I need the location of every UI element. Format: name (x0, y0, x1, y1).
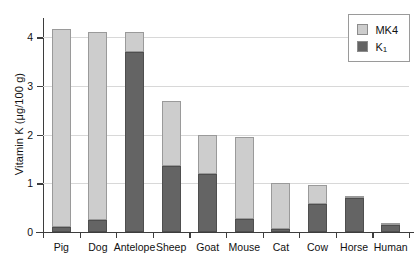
bar-goat (198, 18, 217, 232)
x-tick-mark (299, 233, 300, 238)
x-tick-mark (263, 233, 264, 238)
bar-segment-k1 (235, 219, 254, 232)
bar-segment-k1 (125, 52, 144, 232)
x-tick-label-cat: Cat (273, 241, 289, 253)
bar-segment-mk4 (198, 135, 217, 174)
bar-segment-k1 (271, 229, 290, 232)
x-tick-label-goat: Goat (196, 241, 219, 253)
x-tick-label-cow: Cow (307, 241, 328, 253)
legend-item-k1: K1 (357, 38, 398, 55)
x-tick-mark (226, 233, 227, 238)
x-tick-mark (43, 233, 44, 238)
bar-segment-k1 (308, 204, 327, 232)
bar-segment-k1 (198, 174, 217, 232)
chart-legend: MK4K1 (348, 14, 410, 62)
bar-segment-k1 (345, 198, 364, 232)
y-tick-label: 0 (18, 226, 33, 238)
bar-segment-mk4 (308, 185, 327, 204)
bar-dog (88, 18, 107, 232)
bar-cow (308, 18, 327, 232)
y-tick-label: 4 (18, 31, 33, 43)
bar-segment-mk4 (345, 196, 364, 198)
bar-pig (52, 18, 71, 232)
bar-sheep (162, 18, 181, 232)
legend-item-mk4: MK4 (357, 21, 398, 38)
bar-mouse (235, 18, 254, 232)
x-tick-label-sheep: Sheep (156, 241, 186, 253)
bar-segment-mk4 (381, 223, 400, 225)
x-tick-mark (372, 233, 373, 238)
vitamin-k-stacked-bar-chart: Vitamin K (μg/100 g) 01234 PigDogAntelop… (0, 0, 418, 264)
legend-label-k1: K1 (375, 41, 387, 53)
bar-segment-mk4 (162, 101, 181, 167)
bar-segment-k1 (88, 220, 107, 232)
bar-cat (271, 18, 290, 232)
x-tick-label-mouse: Mouse (229, 241, 261, 253)
bar-segment-mk4 (52, 29, 71, 227)
y-tick-label: 2 (18, 129, 33, 141)
bar-segment-mk4 (271, 183, 290, 228)
x-tick-mark (116, 233, 117, 238)
x-tick-mark (80, 233, 81, 238)
x-tick-label-antelope: Antelope (114, 241, 155, 253)
legend-swatch-k1 (357, 41, 368, 52)
x-tick-mark (409, 233, 410, 238)
x-tick-mark (336, 233, 337, 238)
x-tick-label-horse: Horse (340, 241, 368, 253)
y-tick-label: 1 (18, 177, 33, 189)
bar-segment-mk4 (125, 32, 144, 52)
bar-antelope (125, 18, 144, 232)
bar-segment-mk4 (235, 137, 254, 220)
bar-segment-k1 (52, 227, 71, 232)
x-tick-mark (189, 233, 190, 238)
x-tick-label-dog: Dog (88, 241, 107, 253)
x-tick-mark (153, 233, 154, 238)
y-tick-label: 3 (18, 80, 33, 92)
bar-segment-mk4 (88, 32, 107, 220)
x-tick-label-human: Human (374, 241, 408, 253)
legend-swatch-mk4 (357, 24, 368, 35)
bar-segment-k1 (381, 225, 400, 232)
bar-segment-k1 (162, 166, 181, 232)
legend-label-mk4: MK4 (375, 24, 398, 36)
x-tick-label-pig: Pig (54, 241, 69, 253)
x-axis-line (36, 232, 414, 233)
